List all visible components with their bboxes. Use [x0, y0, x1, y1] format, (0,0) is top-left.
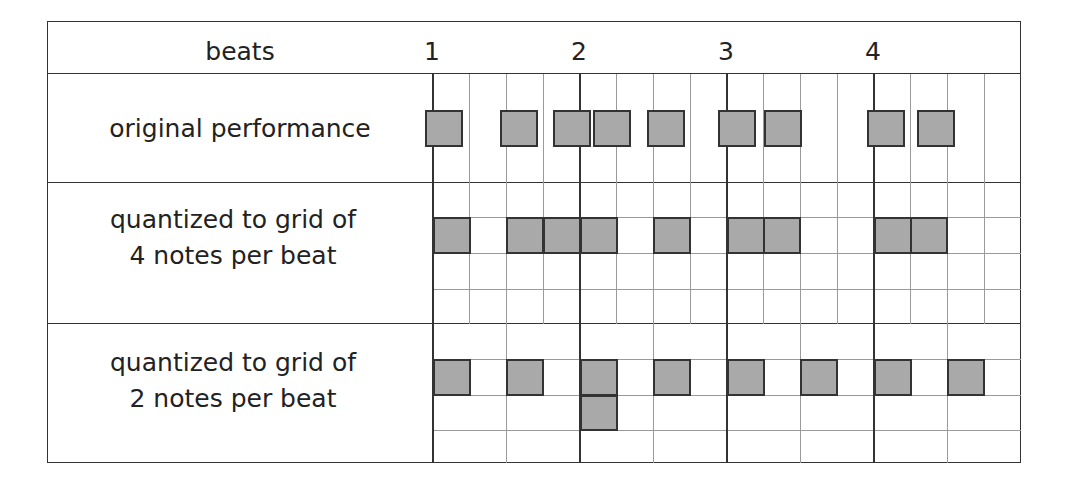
note	[653, 217, 691, 254]
note	[718, 110, 756, 147]
row-label-original: original performance	[47, 111, 433, 147]
note	[553, 110, 591, 147]
note	[500, 110, 538, 147]
note	[867, 110, 905, 147]
note	[425, 110, 463, 147]
note	[580, 395, 618, 431]
row-label-4-per-beat-line1: quantized to grid of	[40, 202, 426, 238]
note	[764, 110, 802, 147]
note	[874, 359, 912, 396]
note	[433, 359, 471, 396]
note	[910, 217, 948, 254]
note	[653, 359, 691, 396]
note	[543, 217, 581, 254]
row-label-4-per-beat-line2: 4 notes per beat	[40, 238, 426, 274]
note	[580, 217, 618, 254]
note	[593, 110, 631, 147]
note	[917, 110, 955, 147]
note	[763, 217, 801, 254]
note	[506, 359, 544, 396]
note	[947, 359, 985, 396]
note	[433, 217, 471, 254]
note	[647, 110, 685, 147]
note	[874, 217, 912, 254]
note	[800, 359, 838, 396]
note	[580, 359, 618, 396]
row-label-2-per-beat-line1: quantized to grid of	[40, 345, 426, 381]
note	[506, 217, 544, 254]
row-label-2-per-beat-line2: 2 notes per beat	[40, 381, 426, 417]
note	[727, 217, 765, 254]
beat-number-1: 1	[424, 38, 440, 66]
beat-number-4: 4	[865, 38, 881, 66]
beat-number-2: 2	[571, 38, 587, 66]
note	[727, 359, 765, 396]
beat-number-3: 3	[718, 38, 734, 66]
beats-header-label: beats	[47, 38, 433, 66]
